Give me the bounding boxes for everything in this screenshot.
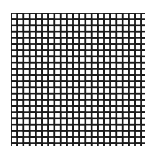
herringbone-bricks bbox=[0, 0, 154, 155]
herringbone-pattern-canvas bbox=[0, 0, 154, 155]
